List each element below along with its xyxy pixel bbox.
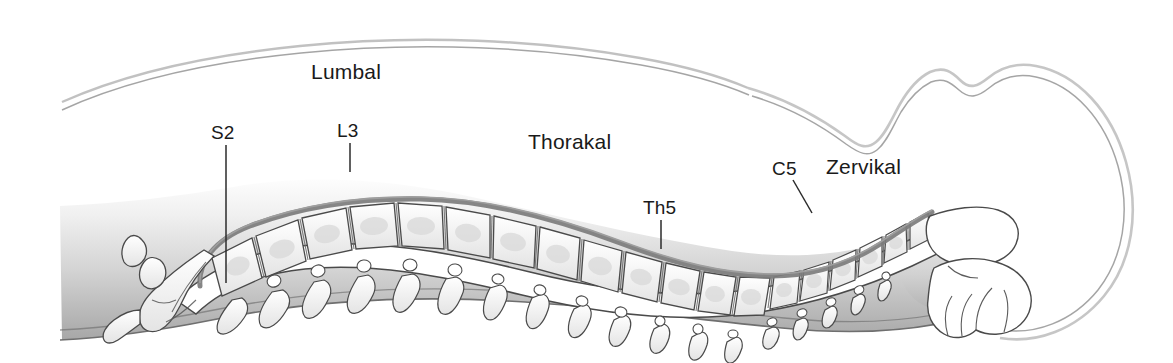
vertebra-label-s2: S2 xyxy=(211,122,235,144)
brainstem-shape xyxy=(926,207,1018,266)
region-label-zervikal: Zervikal xyxy=(826,155,901,179)
region-label-lumbal: Lumbal xyxy=(311,60,381,84)
vertebra-label-c5: C5 xyxy=(772,158,797,180)
vertebra-label-l3: L3 xyxy=(337,120,359,142)
leader-line-c5 xyxy=(793,180,812,213)
cerebellum-shape xyxy=(928,259,1032,338)
anatomy-figure: Lumbal Thorakal Zervikal S2 L3 Th5 C5 xyxy=(0,0,1173,363)
brainstem-cerebellum xyxy=(926,207,1031,337)
vertebra-label-th5: Th5 xyxy=(643,197,676,219)
spine-illustration xyxy=(0,0,1173,363)
region-label-thorakal: Thorakal xyxy=(528,130,611,154)
back-contour xyxy=(62,40,749,110)
